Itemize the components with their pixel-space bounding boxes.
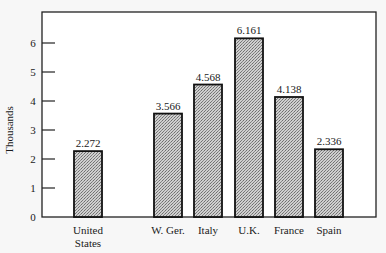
x-tick-label: Spain: [316, 224, 342, 236]
x-tick-label: U.K.: [238, 224, 260, 236]
bar-value-label: 2.336: [317, 135, 342, 147]
y-tick-label: 3: [30, 124, 36, 136]
bar-value-label: 4.568: [196, 71, 221, 83]
bar-chart: 0123456 2.272UnitedStates3.566W. Ger.4.5…: [0, 0, 386, 253]
y-tick-label: 4: [30, 95, 36, 107]
x-tick-label: France: [274, 224, 304, 236]
bar: [74, 151, 102, 217]
bar-value-label: 4.138: [277, 83, 302, 95]
bar: [275, 97, 303, 217]
bar: [315, 149, 343, 217]
y-tick-label: 1: [30, 182, 36, 194]
y-tick-label: 6: [30, 37, 36, 49]
y-tick-label: 2: [30, 153, 36, 165]
bar: [235, 38, 263, 217]
y-axis-title: Thousands: [3, 106, 15, 154]
y-tick-label: 0: [30, 211, 36, 223]
y-tick-label: 5: [30, 66, 36, 78]
bar: [194, 85, 222, 217]
bar-value-label: 3.566: [156, 100, 181, 112]
x-tick-label: UnitedStates: [73, 224, 103, 249]
bar: [154, 114, 182, 217]
bar-value-label: 6.161: [237, 24, 262, 36]
x-tick-label: W. Ger.: [151, 224, 185, 236]
bar-value-label: 2.272: [76, 137, 101, 149]
x-tick-label: Italy: [198, 224, 219, 236]
